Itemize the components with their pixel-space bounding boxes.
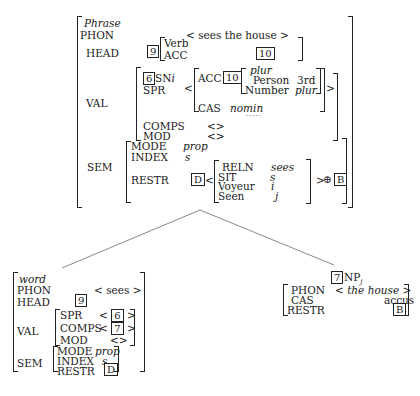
word-sem-label: SEM <box>17 357 43 369</box>
mother-head-type: Verb <box>164 37 189 49</box>
word-comps-label: COMPS <box>60 322 102 334</box>
mother-number-value: plur <box>295 84 317 96</box>
mother-phon-label: PHON <box>80 29 114 41</box>
branch-right-line <box>200 210 334 265</box>
sem-right-bracket <box>342 138 347 204</box>
mother-restr-open: < <box>205 174 214 186</box>
word-head-tag: 9 <box>75 294 87 307</box>
mother-voyeur-value: i <box>271 180 274 192</box>
np-right-bracket <box>404 284 409 316</box>
word-restr-label: RESTR <box>57 365 95 377</box>
mother-index-value: s <box>185 151 190 163</box>
mother-spr-acc-label: ACC <box>198 72 222 84</box>
head-right-bracket <box>298 37 303 61</box>
spr-item-right-bracket <box>320 68 325 112</box>
mother-restr-label: RESTR <box>131 174 169 186</box>
mother-spr-np: SNi <box>155 72 175 84</box>
word-spr-tag: 6 <box>111 309 123 322</box>
mother-head-label: HEAD <box>86 47 119 59</box>
mother-left-bracket <box>77 16 82 208</box>
word-val-right-bracket <box>130 309 135 346</box>
val-left-bracket <box>136 67 141 141</box>
mother-head-tag: 9 <box>147 45 159 58</box>
oplus-icon: ⊕ <box>323 173 332 185</box>
dotted-underline: ····· <box>246 112 262 120</box>
word-phon-value: < sees > <box>94 284 141 296</box>
mother-spr-label: SPR <box>143 84 165 96</box>
mother-val-label: VAL <box>86 97 107 109</box>
mother-seen-label: Seen <box>218 190 244 202</box>
mother-spr-acc-tag: 10 <box>223 71 242 84</box>
mother-phon-value: < sees the house > <box>186 29 289 41</box>
np-tag: 7 <box>331 271 343 284</box>
word-val-label: VAL <box>17 325 38 337</box>
word-sem-right-bracket <box>114 346 119 372</box>
val-right-bracket <box>333 73 338 141</box>
mother-sem-label: SEM <box>87 161 113 173</box>
mother-type: Phrase <box>84 17 121 29</box>
mother-spr-open: < <box>184 82 193 94</box>
word-phon-label: PHON <box>17 284 51 296</box>
word-head-label: HEAD <box>17 296 50 308</box>
mother-right-bracket <box>348 16 353 208</box>
branch-left-line <box>62 210 200 268</box>
restr-right-bracket <box>306 159 311 204</box>
mother-head-acc-label: ACC <box>164 49 188 61</box>
mother-number-label: Number <box>245 84 289 96</box>
mother-head-acc-tag: 10 <box>256 47 275 60</box>
mother-seen-value: j <box>275 190 278 202</box>
mother-index-label: INDEX <box>131 151 168 163</box>
mother-restr-tag: D <box>191 173 205 186</box>
np-restr-label: RESTR <box>287 304 325 316</box>
word-spr-label: SPR <box>60 309 82 321</box>
mother-mod-value: <> <box>207 130 225 142</box>
mother-cas-label: CAS <box>198 102 221 114</box>
